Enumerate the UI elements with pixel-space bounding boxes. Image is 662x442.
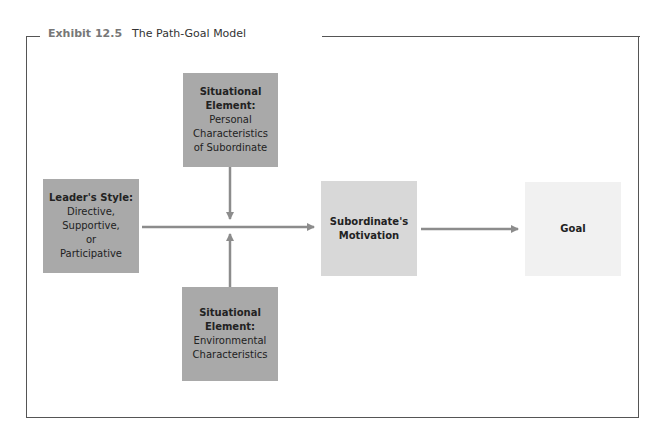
label: Goal: [560, 222, 585, 236]
label: Directive,: [49, 205, 133, 219]
box-goal: Goal: [525, 182, 621, 276]
label: Situational: [193, 85, 268, 99]
label: Environmental: [193, 334, 268, 348]
box-subordinate-motivation: Subordinate's Motivation: [321, 181, 417, 276]
box-leader-style: Leader's Style: Directive, Supportive, o…: [43, 179, 139, 273]
label: Personal: [193, 113, 268, 127]
label: Motivation: [330, 229, 408, 243]
label: or: [49, 233, 133, 247]
box-environmental-characteristics: Situational Element: Environmental Chara…: [182, 287, 278, 381]
label: Characteristics: [193, 127, 268, 141]
label: Situational: [193, 306, 268, 320]
label: Element:: [193, 320, 268, 334]
label: Supportive,: [49, 219, 133, 233]
box-personal-characteristics: Situational Element: Personal Characteri…: [183, 73, 278, 167]
label: Characteristics: [193, 348, 268, 362]
label: of Subordinate: [193, 141, 268, 155]
label: Element:: [193, 99, 268, 113]
label: Leader's Style:: [49, 191, 133, 205]
label: Participative: [49, 247, 133, 261]
label: Subordinate's: [330, 215, 408, 229]
